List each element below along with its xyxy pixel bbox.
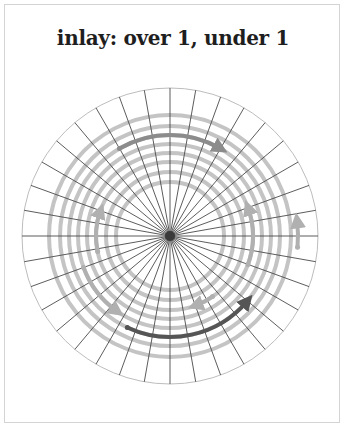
top-arc-arrow-start-dot: [117, 146, 122, 151]
bottom-arc-arrow-start-dot: [125, 325, 130, 330]
left-vertical-arrow: [96, 211, 100, 252]
lower-right-inner-arrow-start-dot: [210, 294, 215, 299]
lower-left-arrow-start-dot: [81, 265, 86, 270]
hub: [165, 231, 175, 241]
right-vertical-arrow-start-dot: [245, 262, 250, 267]
left-vertical-arrow-start-dot: [95, 249, 100, 254]
right-outer-up-arrow: [297, 220, 298, 247]
right-outer-up-arrow-start-dot: [295, 245, 300, 250]
weave-diagram: [0, 0, 346, 433]
